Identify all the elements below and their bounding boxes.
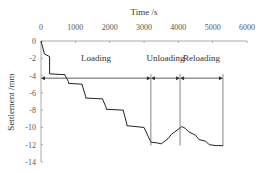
x-tick-label: 0 bbox=[39, 23, 43, 32]
phase-label: Loading bbox=[81, 53, 111, 63]
y-tick-label: -4 bbox=[29, 72, 36, 81]
y-tick-label: -10 bbox=[25, 123, 36, 132]
x-axis-title: Time /s bbox=[131, 7, 158, 17]
y-tick-label: -14 bbox=[25, 158, 36, 167]
phase-label: Reloading bbox=[183, 53, 220, 63]
x-tick-label: 3000 bbox=[136, 23, 152, 32]
y-tick-label: -12 bbox=[25, 141, 36, 150]
y-tick-label: -2 bbox=[29, 54, 36, 63]
x-tick-label: 2000 bbox=[102, 23, 118, 32]
y-axis-title: Settlement /mm bbox=[6, 73, 16, 130]
chart-canvas: 01000200030004000500060000-2-4-6-8-10-12… bbox=[0, 0, 268, 173]
x-tick-label: 1000 bbox=[67, 23, 83, 32]
x-tick-label: 5000 bbox=[205, 23, 221, 32]
phase-label: Unloading bbox=[146, 53, 184, 63]
y-tick-label: -6 bbox=[29, 89, 36, 98]
settlement-chart: 01000200030004000500060000-2-4-6-8-10-12… bbox=[0, 0, 268, 173]
y-tick-label: -8 bbox=[29, 106, 36, 115]
x-tick-label: 4000 bbox=[170, 23, 186, 32]
x-tick-label: 6000 bbox=[239, 23, 255, 32]
y-tick-label: 0 bbox=[32, 37, 36, 46]
